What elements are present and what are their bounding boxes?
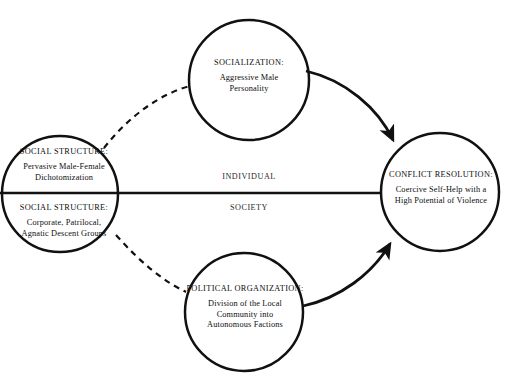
node-title-conflict-resolution: CONFLICT RESOLUTION: xyxy=(377,170,505,181)
edge-socialization-to-conflict-resolution xyxy=(306,71,393,140)
edge-political-organization-to-conflict-resolution xyxy=(303,244,390,306)
node-title-social-structure-descent-groups: SOCIAL STRUCTURE: xyxy=(0,203,128,214)
node-label-social-structure-descent-groups: SOCIAL STRUCTURE: Corporate, Patrilocal,… xyxy=(0,203,128,239)
node-line-1: Coercive Self-Help with a xyxy=(377,185,505,196)
divider-label-society: SOCIETY xyxy=(189,203,309,212)
node-line-2: Agnatic Descent Groups xyxy=(0,229,128,240)
node-label-political-organization: POLITICAL ORGANIZATION: Division of the … xyxy=(179,284,311,331)
node-line-2: Personality xyxy=(189,84,309,95)
node-line-1: Aggressive Male xyxy=(189,73,309,84)
node-line-1: Pervasive Male-Female xyxy=(0,162,128,173)
node-line-2: High Potential of Violence xyxy=(377,196,505,207)
edge-structure-to-political-organization xyxy=(116,235,186,292)
node-label-social-structure-dichotomization: SOCIAL STRUCTURE: Pervasive Male-Female … xyxy=(0,147,128,183)
node-title-social-structure-dichotomization: SOCIAL STRUCTURE: xyxy=(0,147,128,158)
node-label-conflict-resolution: CONFLICT RESOLUTION: Coercive Self-Help … xyxy=(377,170,505,206)
node-line-1: Corporate, Patrilocal, xyxy=(0,218,128,229)
node-title-political-organization: POLITICAL ORGANIZATION: xyxy=(179,284,311,295)
node-title-socialization: SOCIALIZATION: xyxy=(189,58,309,69)
node-line-2: Community into xyxy=(179,310,311,321)
divider-label-individual: INDIVIDUAL xyxy=(189,172,309,181)
node-line-1: Division of the Local xyxy=(179,299,311,310)
conflict-resolution-diagram: SOCIAL STRUCTURE: Pervasive Male-Female … xyxy=(0,0,522,392)
edge-structure-to-socialization xyxy=(104,86,190,148)
node-label-socialization: SOCIALIZATION: Aggressive Male Personali… xyxy=(189,58,309,94)
node-line-2: Dichotomization xyxy=(0,173,128,184)
node-line-3: Autonomous Factions xyxy=(179,320,311,331)
